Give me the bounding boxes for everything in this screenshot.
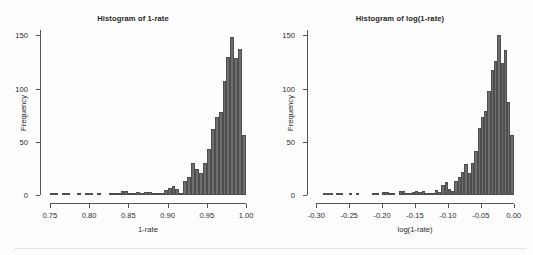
x-axis-tick-label: -0.10 [439, 211, 456, 220]
x-axis-tick-label: 0.80 [82, 211, 97, 220]
y-axis-tick [303, 142, 307, 143]
x-axis-tick-label: 0.90 [160, 211, 175, 220]
x-axis-tick [349, 204, 350, 208]
x-axis-tick-label: -0.05 [472, 211, 489, 220]
x-axis-tick [481, 204, 482, 208]
y-axis-tick [303, 195, 307, 196]
y-axis-tick [36, 142, 40, 143]
x-axis-tick-label: 0.00 [506, 211, 521, 220]
x-axis-line [50, 203, 246, 204]
histogram-bar [349, 193, 352, 195]
histogram-bar [356, 193, 359, 195]
x-axis-tick [514, 204, 515, 208]
histogram-bar [97, 193, 101, 195]
panel-title: Histogram of log(1-rate) [267, 14, 533, 23]
x-axis-tick-label: -0.15 [406, 211, 423, 220]
x-axis-tick [128, 204, 129, 208]
x-axis-tick [382, 204, 383, 208]
histogram-bar [66, 193, 70, 195]
histogram-bar [339, 193, 342, 195]
y-axis-tick [303, 35, 307, 36]
x-axis-tick [316, 204, 317, 208]
x-axis-tick [246, 204, 247, 208]
histogram-bar [54, 193, 58, 195]
plot-area: 050100150-0.30-0.25-0.20-0.15-0.10-0.050… [313, 30, 517, 195]
x-axis-title: log(1-rate) [313, 225, 517, 234]
panel-title: Histogram of 1-rate [0, 14, 266, 23]
x-axis-tick [50, 204, 51, 208]
y-axis-tick-label: 50 [287, 137, 295, 146]
histogram-bar [510, 135, 513, 195]
y-axis-title: Frequency [286, 95, 295, 131]
figure-canvas: Histogram of 1-rate 0501001500.750.800.8… [0, 0, 533, 255]
histogram-bar [376, 193, 379, 195]
histogram-bar [329, 193, 332, 195]
plot-area: 0501001500.750.800.850.900.951.00 Freque… [46, 30, 250, 195]
y-axis-tick-label: 100 [15, 84, 28, 93]
x-axis-tick-label: 0.95 [199, 211, 214, 220]
y-axis-tick-label: 100 [282, 84, 295, 93]
bar-series [313, 30, 517, 195]
x-axis-tick [168, 204, 169, 208]
y-axis-tick-label: 0 [291, 191, 295, 200]
y-axis-tick-label: 150 [15, 31, 28, 40]
histogram-panel-1-rate: Histogram of 1-rate 0501001500.750.800.8… [0, 0, 266, 243]
histogram-bar [77, 193, 81, 195]
y-axis-line [40, 30, 41, 195]
histogram-bar [392, 193, 395, 195]
y-axis-tick [303, 89, 307, 90]
y-axis-tick [36, 35, 40, 36]
x-axis-title: 1-rate [46, 225, 250, 234]
x-axis-tick [207, 204, 208, 208]
x-axis-tick-label: -0.25 [341, 211, 358, 220]
x-axis-tick [89, 204, 90, 208]
footer-divider [14, 248, 526, 249]
y-axis-title: Frequency [19, 95, 28, 131]
y-axis-tick [36, 89, 40, 90]
y-axis-tick [36, 195, 40, 196]
x-axis-tick [415, 204, 416, 208]
x-axis-tick-label: 1.00 [239, 211, 254, 220]
histogram-panel-log-1-rate: Histogram of log(1-rate) 050100150-0.30-… [267, 0, 533, 243]
x-axis-tick-label: 0.85 [121, 211, 136, 220]
y-axis-tick-label: 150 [282, 31, 295, 40]
y-axis-line [307, 30, 308, 195]
histogram-bar [89, 193, 93, 195]
y-axis-tick-label: 50 [20, 137, 28, 146]
y-axis-tick-label: 0 [24, 191, 28, 200]
x-axis-tick-label: -0.20 [373, 211, 390, 220]
bar-series [46, 30, 250, 195]
x-axis-tick [448, 204, 449, 208]
histogram-bar [242, 135, 246, 195]
x-axis-tick-label: -0.30 [308, 211, 325, 220]
x-axis-tick-label: 0.75 [43, 211, 58, 220]
